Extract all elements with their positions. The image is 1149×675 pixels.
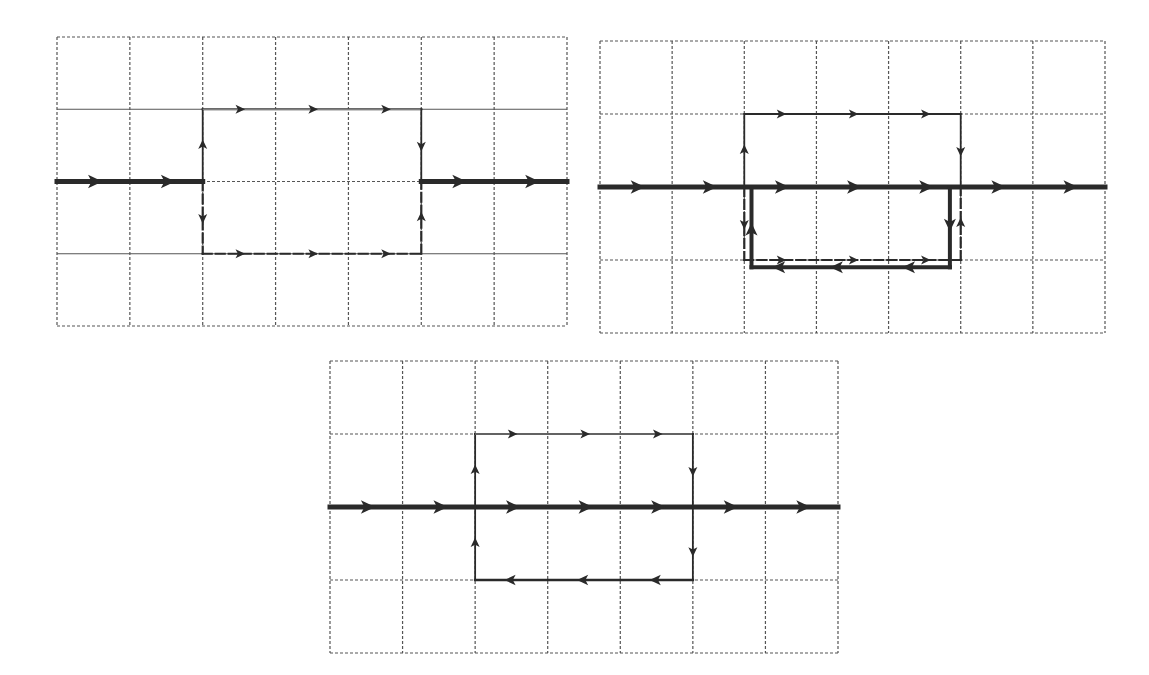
diagram-panel-bottom-center [330, 361, 838, 653]
main-path-left-segment [57, 175, 203, 189]
lower-dashed-right-segment [956, 187, 965, 260]
upper-loop-left-segment [198, 109, 207, 181]
main-path-right-segment [421, 175, 567, 189]
main-path-segment [330, 500, 838, 514]
upper-loop-right-segment [417, 109, 426, 181]
upper-loop-top-segment [203, 105, 422, 114]
diagram-panel-top-left [57, 37, 567, 326]
grid-diagram [330, 361, 838, 653]
lower-loop-bottom-segment [203, 249, 422, 258]
lower-dashed-bottom-segment [744, 256, 960, 265]
lower-loop-bottom-segment [475, 575, 693, 586]
reverse-loop-right-segment [944, 187, 956, 267]
reverse-loop-left-segment [746, 187, 758, 267]
upper-loop-right-segment [956, 114, 965, 187]
main-path-segment [600, 180, 1105, 194]
grid-diagram [57, 37, 567, 326]
upper-loop-right-segment [688, 434, 697, 507]
upper-loop-top-segment [744, 110, 960, 119]
upper-loop-left-segment [740, 114, 749, 187]
lower-loop-left-segment [471, 507, 480, 580]
grid-diagram [600, 41, 1105, 333]
lower-loop-right-segment [688, 507, 697, 580]
upper-loop-left-segment [471, 434, 480, 507]
diagram-panel-top-right [600, 41, 1105, 333]
upper-loop-top-segment [475, 430, 693, 439]
